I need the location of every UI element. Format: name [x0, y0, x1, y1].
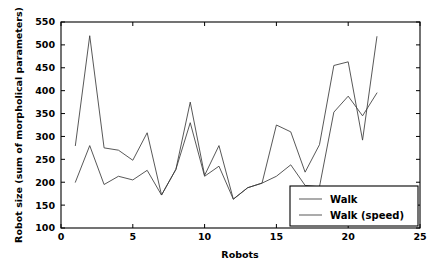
chart-figure: 0510152025 10015020025030035040045050055…	[0, 0, 443, 269]
y-tick-label: 400	[35, 85, 55, 96]
y-tick-label: 500	[35, 39, 55, 50]
line-chart: 0510152025 10015020025030035040045050055…	[0, 0, 443, 269]
x-tick-label: 5	[129, 231, 136, 242]
x-axis-title: Robots	[221, 249, 259, 260]
x-tick-label: 25	[413, 231, 426, 242]
y-tick-label: 300	[35, 131, 55, 142]
y-tick-label: 350	[35, 108, 55, 119]
x-tick-label: 10	[198, 231, 212, 242]
x-tick-label: 0	[58, 231, 65, 242]
y-tick-label: 550	[35, 16, 55, 27]
y-tick-label: 200	[35, 177, 55, 188]
x-tick-label: 15	[270, 231, 283, 242]
chart-legend: WalkWalk (speed)	[290, 186, 418, 226]
y-tick-label: 250	[35, 154, 55, 165]
y-tick-label: 150	[35, 200, 55, 211]
y-tick-label: 450	[35, 62, 55, 73]
legend-label-0: Walk	[330, 194, 358, 205]
legend-label-1: Walk (speed)	[330, 210, 404, 221]
x-tick-label: 20	[342, 231, 356, 242]
y-tick-label: 100	[35, 222, 55, 233]
y-axis-title: Robot size (sum of morpholical parameter…	[13, 7, 24, 243]
